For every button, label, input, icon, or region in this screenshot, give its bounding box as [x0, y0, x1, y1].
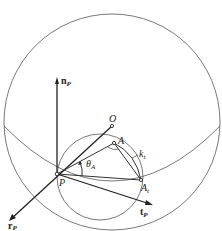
kt-leader — [132, 155, 138, 158]
chord-p-at — [57, 174, 141, 180]
label-t: tP — [140, 206, 148, 219]
label-o: O — [109, 113, 116, 124]
label-theta: θA — [86, 158, 96, 171]
label-kt: kt — [139, 148, 146, 161]
label-r: rP — [8, 220, 17, 231]
sphere-diagram: nP O A kt θA P At tP rP — [0, 0, 222, 231]
label-n: nP — [61, 75, 72, 88]
equator-curve — [4, 126, 220, 181]
chord-a-at — [114, 143, 141, 180]
r-axis — [11, 126, 112, 219]
point-o — [110, 124, 113, 127]
point-p — [55, 172, 59, 176]
label-at: At — [140, 182, 150, 195]
label-p: P — [58, 177, 65, 188]
point-a — [112, 141, 115, 144]
n-arrow-icon — [55, 77, 59, 84]
t-arrow-icon — [145, 200, 153, 205]
label-a: A — [117, 135, 125, 146]
